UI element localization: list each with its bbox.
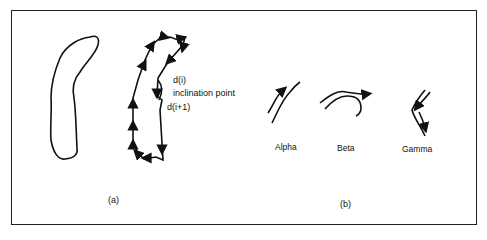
shape-label-beta: Beta [337, 143, 355, 153]
label-d-i: d(i) [173, 75, 186, 85]
beta-shape [320, 92, 367, 116]
alpha-shape [268, 82, 300, 123]
figure-drawing [0, 0, 487, 240]
chain-coded-contour [133, 36, 185, 160]
panel-a-label: (a) [108, 195, 119, 205]
shape-label-gamma: Gamma [402, 144, 432, 154]
label-d-i-plus-1: d(i+1) [167, 102, 190, 112]
gamma-shape [412, 90, 430, 136]
panel-b-label: (b) [340, 199, 351, 209]
shape-label-alpha: Alpha [275, 142, 297, 152]
label-inclination-point: inclination point [173, 88, 235, 98]
plain-contour [51, 36, 99, 159]
